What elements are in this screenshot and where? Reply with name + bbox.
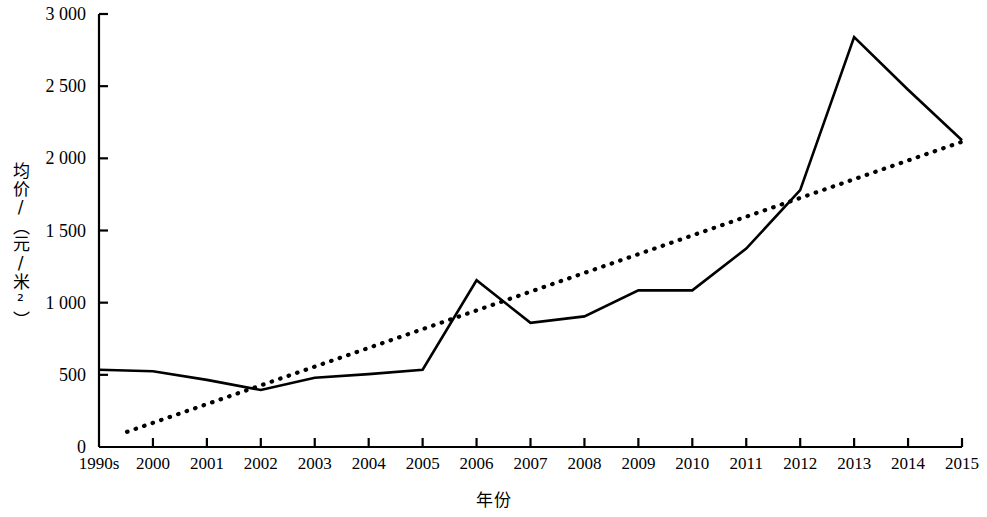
- line-chart: 均价/（元/米²） 年份 05001 0001 5002 0002 5003 0…: [0, 0, 987, 517]
- y-axis-ticks: [99, 14, 108, 375]
- plot-area: [0, 0, 987, 517]
- x-axis-ticks: [153, 438, 962, 447]
- axis-lines: [99, 14, 962, 447]
- price-line-series: [99, 37, 962, 390]
